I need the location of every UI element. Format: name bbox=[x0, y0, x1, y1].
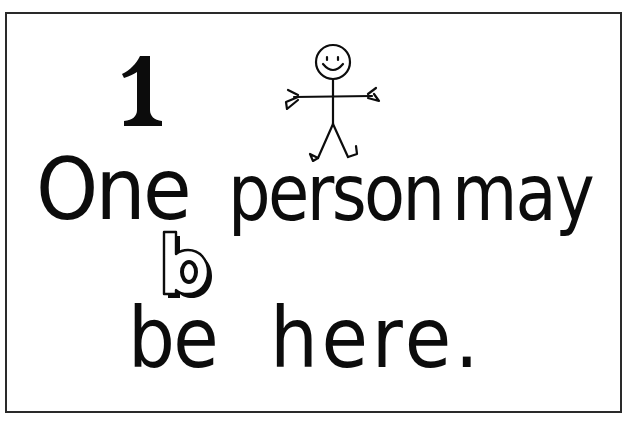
word-person: person bbox=[228, 154, 442, 232]
word-here: here. bbox=[270, 296, 482, 380]
word-be: be bbox=[128, 296, 217, 380]
word-one: One bbox=[36, 146, 189, 232]
stick-figure-person-icon bbox=[280, 40, 385, 162]
numeral-one-icon: 1 bbox=[118, 54, 166, 128]
word-may: may bbox=[452, 154, 593, 232]
